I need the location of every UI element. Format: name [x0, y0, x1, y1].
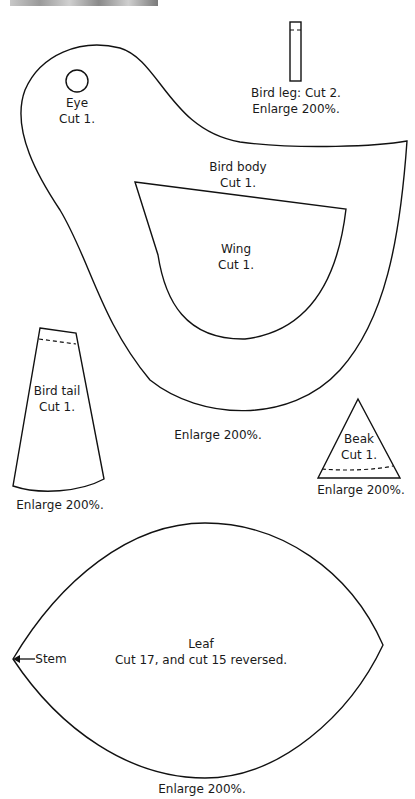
eye-name: Eye: [59, 95, 95, 111]
eye-cut: Cut 1.: [59, 111, 95, 127]
bird-leg-enlarge: Enlarge 200%.: [251, 101, 341, 117]
beak-fold-line: [322, 466, 393, 470]
leaf-enlarge: Enlarge 200%.: [158, 781, 246, 797]
bird-tail-enlarge: Enlarge 200%.: [16, 497, 104, 513]
leaf-label: Leaf Cut 17, and cut 15 reversed.: [115, 636, 287, 668]
bird-tail-name: Bird tail: [34, 383, 80, 399]
bird-leg-outline: [290, 22, 301, 81]
bird-leg-cut: Bird leg: Cut 2.: [251, 85, 341, 101]
eye-outline: [66, 70, 88, 92]
bird-tail-label: Bird tail Cut 1.: [34, 383, 80, 415]
wing-name: Wing: [218, 241, 254, 257]
wing-label: Wing Cut 1.: [218, 241, 254, 273]
beak-label: Beak Cut 1.: [341, 431, 377, 463]
bird-leg-label: Bird leg: Cut 2. Enlarge 200%.: [251, 85, 341, 117]
bird-body-enlarge: Enlarge 200%.: [174, 427, 262, 443]
beak-name: Beak: [341, 431, 377, 447]
bird-tail-fold-line: [39, 339, 76, 344]
leaf-cut: Cut 17, and cut 15 reversed.: [115, 652, 287, 668]
bird-tail-cut: Cut 1.: [34, 399, 80, 415]
bird-body-label: Bird body Cut 1.: [209, 159, 266, 191]
eye-label: Eye Cut 1.: [59, 95, 95, 127]
beak-enlarge: Enlarge 200%.: [317, 482, 405, 498]
stem-label: Stem: [35, 651, 66, 667]
leaf-name: Leaf: [115, 636, 287, 652]
bird-body-name: Bird body: [209, 159, 266, 175]
bird-body-cut: Cut 1.: [209, 175, 266, 191]
beak-cut: Cut 1.: [341, 447, 377, 463]
wing-cut: Cut 1.: [218, 257, 254, 273]
